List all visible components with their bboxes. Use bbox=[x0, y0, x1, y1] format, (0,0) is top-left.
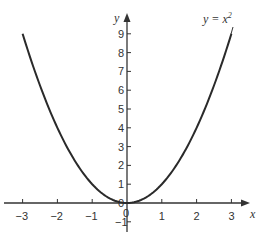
x-tick-label: −1 bbox=[85, 210, 98, 222]
y-tick-label: 8 bbox=[118, 47, 124, 59]
x-tick-label: 3 bbox=[228, 210, 234, 222]
y-tick-label: 9 bbox=[118, 28, 124, 40]
y-tick-label: 6 bbox=[118, 84, 124, 96]
x-tick-label: −2 bbox=[50, 210, 63, 222]
x-axis-arrow-icon bbox=[241, 200, 250, 207]
y-tick-label: 3 bbox=[118, 141, 124, 153]
x-tick-label: −3 bbox=[16, 210, 29, 222]
y-tick-label: 7 bbox=[118, 65, 124, 77]
y-tick-label: −1 bbox=[115, 216, 128, 228]
x-tick-label: 2 bbox=[194, 210, 200, 222]
y-axis bbox=[124, 13, 131, 232]
y-tick-label: 4 bbox=[118, 122, 124, 134]
y-tick-label: 1 bbox=[118, 178, 124, 190]
y-tick-label: 5 bbox=[118, 103, 124, 115]
x-axis-label: x bbox=[249, 207, 256, 221]
x-tick-label: 1 bbox=[159, 210, 165, 222]
y-ticks: −10123456789 bbox=[115, 28, 131, 228]
parabola-chart: −3−2−10123 −10123456789 x y y = x2 bbox=[0, 0, 262, 241]
curve-label: y = x2 bbox=[202, 11, 232, 26]
curve-label-pointer bbox=[231, 27, 233, 34]
y-axis-label: y bbox=[113, 11, 120, 25]
y-axis-arrow-icon bbox=[124, 13, 131, 22]
y-tick-label: 2 bbox=[118, 159, 124, 171]
